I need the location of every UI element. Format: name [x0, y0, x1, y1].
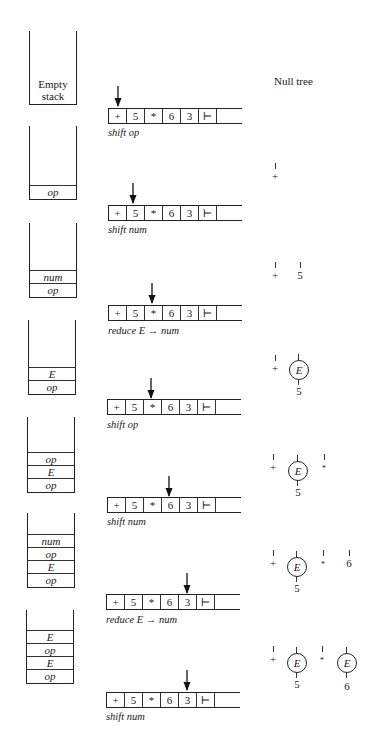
input-tape-step-2: + 5 * 6 3 ⊢ — [108, 305, 242, 321]
tape-cell: + — [107, 693, 125, 707]
leaf-label: * — [321, 560, 325, 569]
tape-cell: 6 — [161, 693, 179, 707]
forest-leaf-plus: + — [267, 646, 279, 665]
stack-cell: op — [28, 478, 74, 492]
tape-cell: 5 — [126, 400, 144, 414]
leaf-label: + — [272, 170, 278, 182]
forest-leaf-plus: + — [269, 355, 281, 374]
stack-step-3: E op — [28, 320, 76, 395]
input-tape-step-4: + 5 * 6 3 ⊢ — [107, 497, 241, 513]
action-label: shift num — [106, 711, 145, 722]
stack-step-0: Empty stack — [29, 31, 77, 105]
tape-cell: 3 — [181, 109, 199, 123]
forest-leaf-plus: + — [267, 550, 279, 569]
tape-cell: ⊢ — [197, 595, 215, 609]
pointer-arrow-icon — [113, 86, 123, 108]
action-label: reduce E → num — [108, 325, 179, 336]
leaf-label: * — [322, 464, 326, 473]
tape-cell: + — [109, 306, 127, 320]
pointer-arrow-icon — [182, 670, 192, 692]
pointer-arrow-icon — [182, 573, 192, 595]
e-child-five: 5 — [292, 582, 302, 594]
action-label: shift num — [107, 516, 146, 527]
tape-cell: 5 — [125, 595, 143, 609]
tape-cell: 6 — [163, 206, 181, 220]
tape-cell: ⊢ — [198, 498, 216, 512]
tape-cell: ⊢ — [198, 400, 216, 414]
e-node-circle: E — [287, 557, 307, 577]
input-tape-step-0: + 5 * 6 3 ⊢ — [108, 108, 242, 124]
stack-cell: E — [29, 367, 75, 381]
tape-cell: + — [109, 109, 127, 123]
action-label: shift op — [107, 419, 138, 430]
tape-cell: 3 — [179, 693, 197, 707]
tape-cell: 5 — [127, 206, 145, 220]
forest-leaf-times: * — [316, 646, 328, 665]
empty-stack-label: Empty stack — [30, 78, 76, 102]
e-child-five: 5 — [293, 486, 303, 498]
leaf-label: + — [270, 557, 276, 569]
stack-step-6: E op E op — [26, 610, 74, 684]
stack-cell: E — [28, 465, 74, 479]
forest-leaf-five: 5 — [294, 262, 306, 281]
leaf-label: 6 — [346, 557, 352, 569]
stack-cell: op — [29, 380, 75, 394]
stack-step-1: op — [29, 126, 77, 200]
tape-cell: 6 — [161, 595, 179, 609]
tape-cell: 3 — [181, 206, 199, 220]
stack-step-4: op E op — [27, 417, 75, 493]
tape-cell: 5 — [127, 109, 145, 123]
stack-cell: op — [28, 547, 74, 561]
stack-step-5: num op E op — [27, 513, 75, 588]
e-node-circle: E — [289, 360, 309, 380]
tape-cell: 5 — [125, 693, 143, 707]
forest-leaf-plus: + — [267, 454, 279, 473]
tape-cell: * — [145, 109, 163, 123]
tape-cell: * — [143, 595, 161, 609]
tape-cell: 5 — [127, 306, 145, 320]
tape-cell: ⊢ — [199, 109, 217, 123]
tape-cell: + — [109, 206, 127, 220]
input-tape-step-3: + 5 * 6 3 ⊢ — [107, 399, 241, 415]
action-label: shift op — [108, 127, 139, 138]
forest-leaf-times: * — [318, 454, 330, 473]
input-tape-step-1: + 5 * 6 3 ⊢ — [108, 205, 242, 221]
stack-cell: op — [28, 573, 74, 587]
leaf-label: + — [272, 269, 278, 281]
stack-step-2: num op — [29, 223, 77, 298]
stack-cell: num — [28, 534, 74, 548]
stack-cell: E — [27, 656, 73, 670]
e-child-five: 5 — [294, 385, 304, 397]
stack-cell: E — [27, 630, 73, 644]
tape-cell: 6 — [163, 306, 181, 320]
tape-cell: 6 — [163, 109, 181, 123]
stack-cell: op — [30, 185, 76, 199]
tape-cell: * — [145, 306, 163, 320]
tape-cell: * — [145, 206, 163, 220]
forest-leaf-six: 6 — [343, 550, 355, 569]
stack-cell: op — [30, 283, 76, 297]
tape-cell: 3 — [181, 306, 199, 320]
tree-edge — [346, 673, 347, 678]
pointer-arrow-icon — [146, 378, 156, 400]
e-node-circle: E — [288, 461, 308, 481]
stack-cell: op — [28, 452, 74, 466]
e-node-circle: E — [337, 653, 357, 673]
forest-leaf-plus: + — [269, 262, 281, 281]
empty-label-line1: Empty — [38, 78, 67, 90]
action-label: shift num — [108, 224, 147, 235]
forest-leaf-plus: + — [269, 163, 281, 182]
e-child-five: 5 — [292, 678, 302, 690]
tape-cell: 3 — [180, 498, 198, 512]
leaf-label: * — [320, 656, 324, 665]
e-child-six: 6 — [342, 680, 352, 692]
input-tape-step-6: + 5 * 6 3 ⊢ — [106, 692, 240, 708]
tape-cell: * — [144, 400, 162, 414]
tape-cell: 3 — [180, 400, 198, 414]
tape-cell: 5 — [126, 498, 144, 512]
tape-cell: 6 — [162, 400, 180, 414]
pointer-arrow-icon — [164, 476, 174, 498]
action-label: reduce E → num — [106, 614, 177, 625]
stack-cell: op — [27, 643, 73, 657]
null-tree-label: Null tree — [274, 75, 313, 87]
